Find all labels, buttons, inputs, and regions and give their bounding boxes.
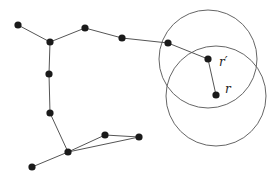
graph-edges [18, 25, 216, 167]
node-C [81, 24, 88, 31]
edge-L-M [105, 135, 139, 137]
edge-C-D [85, 28, 122, 38]
node-E [164, 39, 171, 46]
node-labels: r′r [219, 55, 232, 96]
edge-D-E [122, 38, 168, 43]
edge-J-M [68, 137, 139, 152]
node-B [46, 38, 53, 45]
node-label: r [225, 82, 232, 96]
edge-I-J [50, 113, 68, 152]
edge-B-C [50, 28, 85, 42]
node-label: r′ [219, 55, 228, 69]
edge-A-B [18, 25, 50, 42]
node-rp [204, 55, 211, 62]
node-H [45, 70, 52, 77]
node-J [64, 148, 71, 155]
graph-diagram: r′r [0, 0, 278, 179]
node-A [14, 21, 21, 28]
edge-E-rp [168, 43, 208, 59]
node-D [118, 34, 125, 41]
node-L [101, 131, 108, 138]
node-I [46, 109, 53, 116]
node-M [135, 133, 142, 140]
node-K [28, 163, 35, 170]
edge-J-L [68, 135, 105, 152]
edge-rp-r [208, 59, 216, 95]
node-r [212, 91, 219, 98]
edge-B-H [49, 42, 50, 74]
edge-H-I [49, 74, 50, 113]
edge-J-K [32, 152, 68, 167]
graph-svg: r′r [0, 0, 278, 179]
graph-nodes [14, 21, 219, 170]
